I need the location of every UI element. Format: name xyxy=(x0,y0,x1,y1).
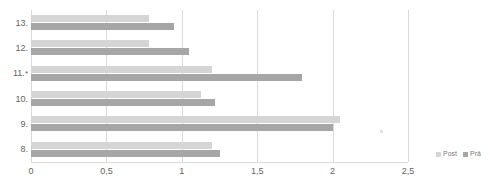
legend-entry-prä[interactable]: Prä xyxy=(463,150,481,158)
bar-chart: PostPrä 00,511,522,513.12.11.*10.9.8. xyxy=(0,0,490,196)
legend-entry-post[interactable]: Post xyxy=(436,150,457,158)
category-label-3: 10. xyxy=(2,94,28,104)
category-label-2: 11.* xyxy=(2,68,28,79)
x-tick-label-3: 1,5 xyxy=(251,166,264,177)
legend-label: Prä xyxy=(470,150,481,158)
x-tick-label-5: 2,5 xyxy=(402,166,415,177)
significance-marker-icon: * xyxy=(25,69,28,78)
legend-swatch-icon xyxy=(436,152,441,157)
x-tick-label-2: 1 xyxy=(179,166,184,177)
bar-group xyxy=(31,86,408,111)
plot-area xyxy=(31,10,408,162)
bar-post-2 xyxy=(31,66,212,73)
bar-prä-0 xyxy=(31,23,174,30)
bar-post-4 xyxy=(31,116,340,123)
x-tick-label-0: 0 xyxy=(28,166,33,177)
bar-prä-1 xyxy=(31,48,189,55)
stray-artifact xyxy=(380,130,383,133)
x-tick-label-4: 2 xyxy=(330,166,335,177)
bar-post-5 xyxy=(31,142,212,149)
legend-label: Post xyxy=(443,150,457,158)
gridline-x-5 xyxy=(408,10,409,162)
category-label-4: 9. xyxy=(2,119,28,129)
category-label-0: 13. xyxy=(2,18,28,28)
bar-prä-4 xyxy=(31,124,333,131)
category-label-5: 8. xyxy=(2,144,28,154)
bar-prä-5 xyxy=(31,150,220,157)
bar-group xyxy=(31,35,408,60)
bar-group xyxy=(31,111,408,136)
bar-prä-3 xyxy=(31,99,215,106)
legend-swatch-icon xyxy=(463,152,468,157)
x-axis-line xyxy=(31,162,408,163)
bar-group xyxy=(31,137,408,162)
bar-post-0 xyxy=(31,15,149,22)
chart-legend: PostPrä xyxy=(436,150,481,158)
bar-prä-2 xyxy=(31,74,302,81)
bar-group xyxy=(31,10,408,35)
category-label-1: 12. xyxy=(2,43,28,53)
x-tick-label-1: 0,5 xyxy=(100,166,113,177)
bar-post-3 xyxy=(31,91,201,98)
bar-group xyxy=(31,61,408,86)
bar-post-1 xyxy=(31,40,149,47)
